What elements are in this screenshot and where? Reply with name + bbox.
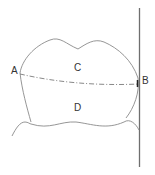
dash-dot-line-a-b — [20, 74, 139, 85]
label-d: D — [74, 102, 81, 113]
label-b: B — [142, 75, 149, 86]
label-c: C — [74, 62, 81, 73]
tooth-diagram: A B C D — [0, 0, 155, 175]
label-a: A — [11, 65, 18, 76]
gum-line — [12, 121, 139, 136]
